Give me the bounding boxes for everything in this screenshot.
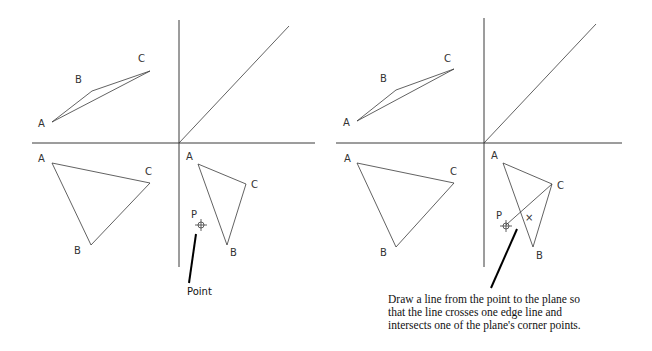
front-label-c: C [444,53,451,64]
side-label-p: P [496,210,502,221]
side-view-plane [503,163,552,247]
right-panel: A B C A C B A C B P × [336,18,622,288]
left-panel: A B C A C B A C B P [32,20,315,283]
top-label-a: A [344,153,351,164]
top-label-c: C [145,166,152,177]
side-label-b: B [230,247,237,258]
side-label-b: B [536,250,543,261]
side-label-c: C [251,179,258,190]
front-label-a: A [38,118,45,129]
front-view-plane [52,71,150,122]
point-p-crosshair-icon [500,220,512,232]
side-view-plane [198,164,246,245]
instruction-text: Draw a line from the point to the plane … [388,293,581,332]
top-label-c: C [450,166,457,177]
point-callout-label: Point [187,286,212,297]
miter-line [179,26,289,143]
point-callout-leader [189,234,196,283]
front-label-b: B [380,73,387,84]
top-label-b: B [74,245,81,256]
front-label-c: C [138,53,145,64]
top-label-b: B [380,247,387,258]
instruction-line-1: Draw a line from the point to the plane … [388,293,581,306]
front-label-a: A [343,117,350,128]
top-label-a: A [38,153,45,164]
instruction-line-3: intersects one of the plane's corner poi… [388,319,581,332]
top-view-plane [357,163,454,247]
front-view-plane [357,69,454,121]
side-label-c: C [557,180,564,191]
front-label-b: B [75,74,82,85]
intersection-x-mark: × [525,212,533,223]
side-label-a: A [186,151,193,162]
instruction-line-2: that the line crosses one edge line and [388,306,581,319]
side-label-a: A [491,150,498,161]
point-p-crosshair-icon [195,219,207,231]
instruction-callout-leader [491,229,517,288]
top-view-plane [52,163,150,245]
miter-line [484,24,596,143]
side-label-p: P [191,209,197,220]
